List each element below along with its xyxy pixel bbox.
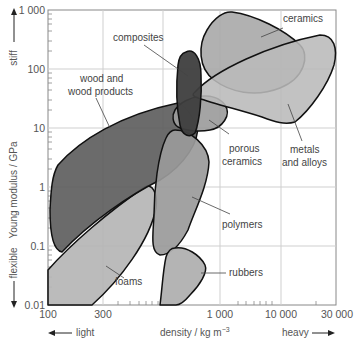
y-tick-labels: 1 000 100 10 1 0.1 0.01 (19, 4, 45, 311)
x-tick-1000: 1 000 (207, 308, 233, 320)
y-tick-100: 100 (27, 63, 45, 75)
label-ceramics: ceramics (283, 13, 323, 24)
light-label: light (76, 327, 95, 338)
label-rubbers: rubbers (229, 267, 263, 278)
flexible-label: flexible (8, 247, 19, 279)
y-tick-1: 1 (39, 181, 45, 193)
y-tick-10: 10 (33, 122, 45, 134)
y-axis-title-group: Young modulus / GPa stiff flexible (8, 8, 19, 308)
label-metals-line2: and alloys (282, 157, 327, 168)
x-axis-title-main: density / kg m (160, 327, 222, 338)
x-axis-title-sup: −3 (222, 326, 230, 333)
label-porous-line1: porous (229, 143, 260, 154)
x-tick-300: 300 (94, 308, 112, 320)
stiff-arrowhead-icon (11, 8, 17, 15)
x-tick-labels: 100 300 1 000 10 000 30 000 (39, 308, 353, 320)
flexible-arrowhead-icon (11, 301, 17, 308)
heavy-arrowhead-icon (328, 330, 335, 336)
x-axis-title: density / kg m−3 (160, 326, 230, 338)
x-tick-30000: 30 000 (321, 308, 353, 320)
y-tick-0.1: 0.1 (30, 240, 45, 252)
x-tick-10000: 10 000 (265, 308, 297, 320)
light-arrowhead-icon (48, 330, 55, 336)
x-tick-100: 100 (39, 308, 57, 320)
material-property-chart: ceramics composites wood and wood produc… (0, 0, 359, 344)
label-foams: foams (115, 276, 142, 287)
label-wood-line2: wood products (67, 86, 133, 97)
label-wood-line1: wood and (79, 73, 123, 84)
label-composites: composites (113, 32, 164, 43)
y-tick-1000: 1 000 (19, 4, 45, 16)
y-axis-title: Young modulus / GPa (8, 141, 19, 238)
heavy-label: heavy (282, 327, 309, 338)
region-composites (177, 51, 202, 135)
label-porous-line2: ceramics (222, 156, 262, 167)
label-polymers: polymers (222, 219, 263, 230)
stiff-label: stiff (8, 50, 19, 66)
x-axis-title-group: density / kg m−3 light heavy (48, 326, 335, 338)
label-metals-line1: metals (290, 144, 319, 155)
